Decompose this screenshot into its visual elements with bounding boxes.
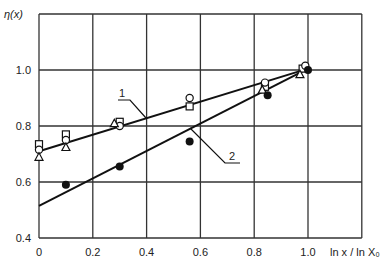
marker-circle — [186, 94, 193, 101]
marker-filled-circle — [116, 163, 124, 171]
marker-square — [186, 103, 193, 110]
marker-filled-circle — [62, 181, 70, 189]
line-label-2: 2 — [229, 150, 235, 162]
y-tick-label: 0.8 — [16, 120, 31, 132]
x-tick-label: 0.8 — [247, 246, 262, 258]
marker-filled-circle — [186, 137, 194, 145]
x-tick-label: 1.0 — [300, 246, 315, 258]
y-axis-label: η(x) — [4, 8, 23, 20]
x-axis-label: ln x / ln X₀ — [330, 246, 380, 258]
x-tick-label: 0.2 — [85, 246, 100, 258]
leader-line-1 — [118, 100, 146, 118]
marker-filled-circle — [264, 91, 272, 99]
y-tick-label: 0.4 — [16, 232, 31, 244]
y-tick-label: 0.6 — [16, 176, 31, 188]
marker-triangle — [35, 153, 43, 161]
x-tick-label: 0.6 — [193, 246, 208, 258]
y-tick-label: 1.0 — [16, 64, 31, 76]
marker-filled-circle — [304, 66, 312, 74]
x-tick-label: 0.4 — [139, 246, 154, 258]
chart: 0.40.60.81.000.20.40.60.81.0η(x)ln x / l… — [0, 0, 390, 265]
x-tick-label: 0 — [36, 246, 42, 258]
line-label-1: 1 — [119, 87, 125, 99]
